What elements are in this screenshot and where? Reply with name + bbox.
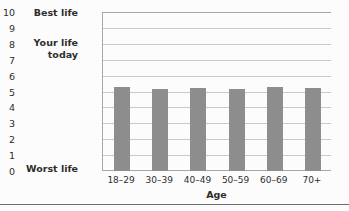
plot-area <box>102 12 331 171</box>
y-tick-label-7: 7 <box>1 54 15 65</box>
x-axis-title: Age <box>102 189 331 200</box>
y-tick-label-3: 3 <box>1 118 15 129</box>
bar-50–59 <box>229 89 245 171</box>
y-tick-label-9: 9 <box>1 22 15 33</box>
y-tick-label-1: 1 <box>1 150 15 161</box>
y-tick-label-2: 2 <box>1 134 15 145</box>
bar-chart-figure: Best life Your life today Worst life 012… <box>0 0 349 211</box>
x-tick-label-60–69: 60–69 <box>260 175 287 185</box>
y-tick-label-10: 10 <box>1 7 15 18</box>
bar-18–29 <box>114 87 130 171</box>
footer-divider <box>0 204 349 205</box>
y-tick-label-8: 8 <box>1 38 15 49</box>
bar-series <box>103 12 331 171</box>
bar-40–49 <box>190 88 206 171</box>
bar-60–69 <box>267 87 283 171</box>
x-tick-label-70+: 70+ <box>302 175 321 185</box>
y-tick-label-6: 6 <box>1 70 15 81</box>
x-tick-label-18–29: 18–29 <box>107 175 134 185</box>
y-axis-top-label: Best life <box>6 7 78 19</box>
y-tick-label-0: 0 <box>1 166 15 177</box>
bar-70+ <box>305 88 321 171</box>
bar-30–39 <box>152 89 168 171</box>
y-axis-bottom-label: Worst life <box>6 163 78 175</box>
x-tick-label-50–59: 50–59 <box>222 175 249 185</box>
x-tick-label-40–49: 40–49 <box>184 175 211 185</box>
y-tick-label-4: 4 <box>1 102 15 113</box>
y-tick-label-5: 5 <box>1 86 15 97</box>
x-tick-label-30–39: 30–39 <box>146 175 173 185</box>
